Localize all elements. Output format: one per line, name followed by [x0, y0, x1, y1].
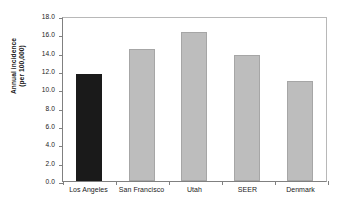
y-tick-label: 12.0 [0, 68, 55, 75]
bar-chart-figure: Annual incidence (per 100,000) 18.016.01… [0, 0, 346, 207]
bar-slot [273, 18, 326, 181]
bar-utah[interactable] [181, 32, 207, 181]
bar-los-angeles[interactable] [76, 74, 102, 181]
bar-slot [63, 18, 116, 181]
bar-san-francisco[interactable] [129, 49, 155, 181]
bar-slot [116, 18, 169, 181]
x-tick-mark [222, 181, 223, 185]
bar-series [63, 18, 326, 181]
y-tick-label: 2.0 [0, 160, 55, 167]
y-tick-label: 0.0 [0, 178, 55, 185]
x-tick-mark [275, 181, 276, 185]
x-tick-mark [116, 181, 117, 185]
plot-area [62, 17, 327, 182]
bar-seer[interactable] [234, 55, 260, 181]
y-tick-label: 16.0 [0, 31, 55, 38]
y-tick-label: 4.0 [0, 141, 55, 148]
x-tick-mark [63, 181, 64, 185]
bar-slot [168, 18, 221, 181]
y-tick-label: 6.0 [0, 123, 55, 130]
bar-slot [221, 18, 274, 181]
x-tick-mark [328, 181, 329, 185]
y-tick-label: 8.0 [0, 105, 55, 112]
y-tick-label: 14.0 [0, 50, 55, 57]
bar-denmark[interactable] [287, 81, 313, 181]
x-tick-label-denmark: Denmark [266, 186, 336, 193]
y-tick-label: 10.0 [0, 86, 55, 93]
y-tick-label: 18.0 [0, 13, 55, 20]
x-tick-mark [169, 181, 170, 185]
